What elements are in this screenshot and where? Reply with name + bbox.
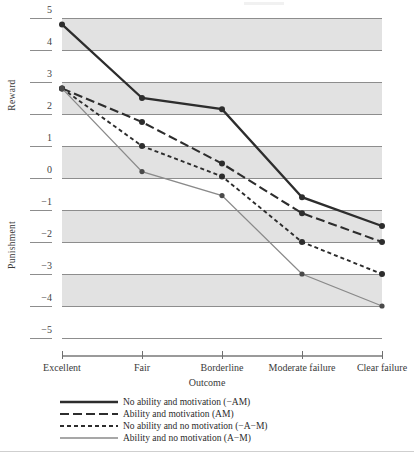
chart-figure: Reward Punishment 543210−1−2−3−4−5 Excel…	[0, 0, 414, 459]
x-axis-tick-labels: ExcellentFairBorderlineModerate failureC…	[0, 362, 414, 378]
series-lines	[62, 18, 382, 338]
y-tick-mark	[30, 306, 52, 307]
data-point-marker	[59, 86, 64, 91]
top-rule	[244, 2, 284, 5]
data-point-marker	[219, 193, 224, 198]
y-tick-mark	[30, 338, 52, 339]
y-tick-mark	[30, 210, 52, 211]
data-point-marker	[139, 119, 145, 125]
y-tick-mark	[30, 114, 52, 115]
y-tick-label: 2	[30, 101, 52, 111]
data-point-marker	[379, 223, 385, 229]
legend-swatch	[60, 408, 120, 420]
legend-swatch	[60, 432, 120, 444]
data-point-marker	[139, 95, 145, 101]
y-axis-label-reward: Reward	[7, 67, 17, 123]
legend-swatch	[60, 396, 120, 408]
y-tick-label: 1	[30, 133, 52, 143]
y-tick-mark	[30, 18, 52, 19]
y-axis-label-punishment: Punishment	[7, 210, 17, 280]
legend-item[interactable]: Ability and no motivation (A−M)	[60, 432, 360, 444]
y-tick-label: −1	[30, 197, 52, 207]
data-point-marker	[139, 143, 145, 149]
data-point-marker	[299, 194, 305, 200]
legend-label: Ability and motivation (AM)	[123, 408, 234, 420]
x-axis-title: Outcome	[0, 377, 414, 388]
data-point-marker	[59, 21, 65, 27]
data-point-marker	[219, 161, 225, 167]
x-tick-label: Clear failure	[357, 362, 407, 373]
x-tick-mark	[62, 351, 63, 359]
x-tick-mark	[142, 351, 143, 359]
y-tick-label: −3	[30, 261, 52, 271]
gridline	[62, 338, 382, 339]
y-tick-label: 0	[30, 165, 52, 175]
x-tick-mark	[302, 351, 303, 359]
data-point-marker	[299, 239, 305, 245]
legend-item[interactable]: No ability and motivation (−AM)	[60, 396, 360, 408]
legend-item[interactable]: Ability and motivation (AM)	[60, 408, 360, 420]
y-tick-label: 5	[30, 5, 52, 15]
y-tick-mark	[30, 146, 52, 147]
y-tick-mark	[30, 274, 52, 275]
y-tick-mark	[30, 50, 52, 51]
x-tick-label: Borderline	[201, 362, 244, 373]
y-tick-label: −4	[30, 293, 52, 303]
legend: No ability and motivation (−AM)Ability a…	[60, 396, 360, 444]
data-point-marker	[379, 303, 384, 308]
data-point-marker	[219, 106, 225, 112]
x-tick-label: Excellent	[43, 362, 81, 373]
y-axis-tick-labels: 543210−1−2−3−4−5	[26, 0, 52, 360]
data-point-marker	[379, 271, 385, 277]
data-point-marker	[139, 169, 144, 174]
legend-swatch	[60, 420, 120, 432]
y-tick-label: 4	[30, 37, 52, 47]
y-tick-mark	[30, 242, 52, 243]
y-tick-label: −2	[30, 229, 52, 239]
x-tick-label: Moderate failure	[269, 362, 336, 373]
data-point-marker	[379, 239, 385, 245]
data-point-marker	[219, 173, 225, 179]
data-point-marker	[299, 210, 305, 216]
legend-label: No ability and no motivation (−A−M)	[123, 420, 268, 432]
y-tick-label: 3	[30, 69, 52, 79]
legend-label: No ability and motivation (−AM)	[123, 396, 250, 408]
legend-label: Ability and no motivation (A−M)	[123, 432, 251, 444]
data-point-marker	[299, 271, 304, 276]
y-tick-label: −5	[30, 325, 52, 335]
x-tick-label: Fair	[134, 362, 150, 373]
series-line	[62, 88, 382, 274]
x-axis	[62, 351, 382, 360]
x-tick-mark	[382, 351, 383, 359]
y-tick-mark	[30, 178, 52, 179]
bottom-rule	[0, 451, 414, 452]
legend-item[interactable]: No ability and no motivation (−A−M)	[60, 420, 360, 432]
y-tick-mark	[30, 82, 52, 83]
x-tick-mark	[222, 351, 223, 359]
plot-area	[62, 18, 382, 338]
